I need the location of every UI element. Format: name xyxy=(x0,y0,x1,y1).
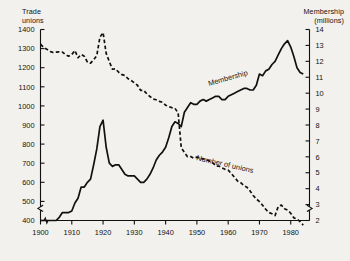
svg-text:5: 5 xyxy=(316,168,320,177)
svg-text:1910: 1910 xyxy=(64,228,80,237)
svg-text:4: 4 xyxy=(316,184,320,193)
x-axis-ticks: 190019101920193019401950196019701980 xyxy=(32,221,299,237)
label-number-of-unions: Number of unions xyxy=(196,153,255,175)
svg-text:1200: 1200 xyxy=(18,63,34,72)
svg-text:1980: 1980 xyxy=(283,228,299,237)
svg-text:800: 800 xyxy=(22,140,34,149)
right-axis-ticks: 141312111098765432 xyxy=(306,25,324,225)
svg-text:1940: 1940 xyxy=(157,228,173,237)
svg-text:1970: 1970 xyxy=(251,228,267,237)
svg-text:1000: 1000 xyxy=(18,102,34,111)
svg-text:700: 700 xyxy=(22,159,34,168)
svg-text:12: 12 xyxy=(316,57,324,66)
svg-text:900: 900 xyxy=(22,121,34,130)
svg-text:1920: 1920 xyxy=(95,228,111,237)
svg-text:14: 14 xyxy=(316,25,324,34)
svg-text:7: 7 xyxy=(316,137,320,146)
svg-text:1400: 1400 xyxy=(18,25,34,34)
svg-text:13: 13 xyxy=(316,41,324,50)
svg-text:3: 3 xyxy=(316,200,320,209)
svg-text:6: 6 xyxy=(316,153,320,162)
svg-text:1930: 1930 xyxy=(126,228,142,237)
svg-text:500: 500 xyxy=(22,197,34,206)
chart-figure: Trade unions Membership (millions) 14001… xyxy=(0,0,350,261)
svg-text:2: 2 xyxy=(316,216,320,225)
svg-text:11: 11 xyxy=(316,73,324,82)
svg-text:1100: 1100 xyxy=(19,83,35,92)
svg-text:400: 400 xyxy=(22,216,34,225)
svg-text:600: 600 xyxy=(22,178,34,187)
label-membership: Membership xyxy=(207,68,249,88)
svg-text:9: 9 xyxy=(316,105,320,114)
svg-text:1300: 1300 xyxy=(18,44,34,53)
svg-text:10: 10 xyxy=(316,89,324,98)
svg-text:8: 8 xyxy=(316,121,320,130)
series-inline-labels: MembershipNumber of unions xyxy=(196,68,255,175)
svg-text:1950: 1950 xyxy=(189,228,205,237)
chart-plot-area: 14001300120011001000900800700600500400 1… xyxy=(0,0,350,261)
svg-text:1900: 1900 xyxy=(32,228,48,237)
series-line-membership xyxy=(41,41,304,221)
data-series xyxy=(41,33,304,226)
svg-text:1960: 1960 xyxy=(220,228,236,237)
